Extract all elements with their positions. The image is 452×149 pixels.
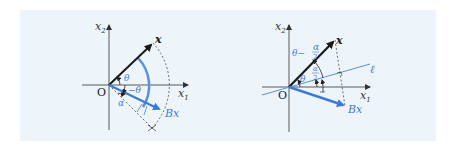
theta-label: θ [124,73,130,83]
frac-den-top: 2 [313,53,317,61]
neg-theta-label: −θ [128,85,142,95]
vector-bx [289,87,343,105]
x1-axis-label: x1 [178,87,189,102]
left-diagram: x2 x1 O x Bx θ −θ α [82,20,189,131]
vector-bx-label: Bx [347,103,363,116]
vector-bx-label: Bx [164,107,180,120]
origin-label: O [278,89,287,102]
x1-axis-label: x1 [360,89,371,104]
origin-label: O [97,86,106,99]
dashed-perpendicular [335,40,345,106]
cross-mark [148,125,156,131]
line-l-label: ℓ [370,63,375,76]
alpha-label: α [118,98,124,108]
x2-axis-label: x2 [275,20,286,35]
vector-x-label: x [154,33,162,46]
tick-marks [137,104,147,115]
reflection-diagrams: x2 x1 O x Bx θ −θ α x2 x1 O x Bx ℓ θ [0,0,452,149]
x2-axis-label: x2 [95,20,106,35]
vector-x-label: x [335,34,343,47]
frac-den-mid: 2 [313,74,317,82]
frac-num-top: α [313,42,319,52]
theta-label: θ [300,74,306,84]
theta-minus-half-alpha-label: θ− [292,48,305,58]
right-diagram: x2 x1 O x Bx ℓ θ θ− α 2 α 2 [262,20,375,132]
frac-num-mid: α [313,65,318,73]
lower-arc [322,80,323,92]
right-angle-mark [337,72,342,76]
